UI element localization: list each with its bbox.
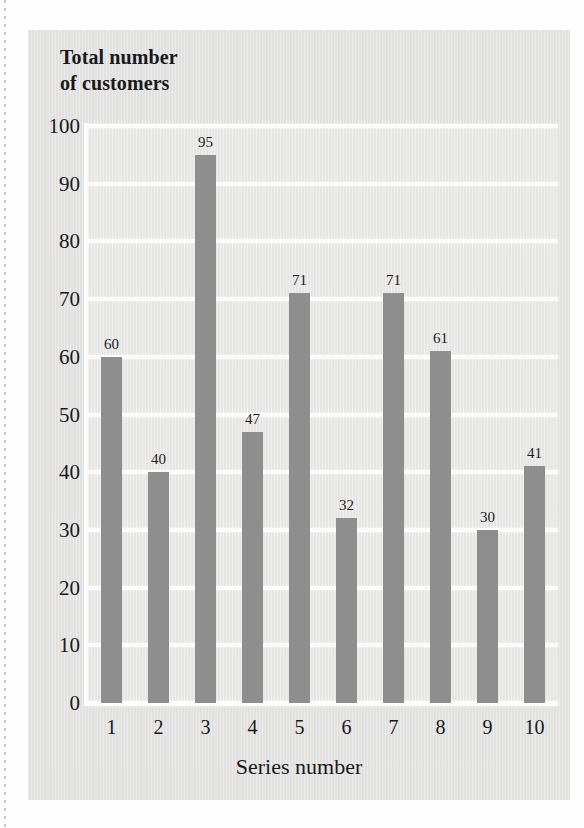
bar-9[interactable]	[477, 530, 498, 703]
bar-value-label-1: 60	[82, 336, 142, 353]
y-tick-label-50: 50	[30, 405, 80, 426]
bar-1[interactable]	[101, 357, 122, 703]
bar-8[interactable]	[430, 351, 451, 703]
x-axis-title: Series number	[28, 754, 570, 780]
bar-5[interactable]	[289, 293, 310, 703]
bar-value-label-10: 41	[505, 445, 565, 462]
bar-6[interactable]	[336, 518, 357, 703]
bar-value-label-4: 47	[223, 411, 283, 428]
bar-4[interactable]	[242, 432, 263, 703]
scanned-page: Total number of customers 10090807060504…	[0, 0, 584, 828]
plot-area: 60409547713271613041	[88, 126, 558, 703]
bar-value-label-8: 61	[411, 330, 471, 347]
bar-value-label-9: 30	[458, 509, 518, 526]
y-tick-label-10: 10	[30, 635, 80, 656]
y-tick-label-20: 20	[30, 578, 80, 599]
bar-2[interactable]	[148, 472, 169, 703]
gridline-80	[88, 239, 558, 243]
bar-value-label-6: 32	[317, 497, 377, 514]
gridline-60	[88, 355, 558, 359]
chart-title: Total number of customers	[60, 44, 360, 97]
y-tick-label-90: 90	[30, 174, 80, 195]
page-gutter-dotted-rule	[4, 0, 6, 828]
gridline-70	[88, 297, 558, 301]
x-tick-label-10: 10	[505, 717, 565, 737]
bar-value-label-2: 40	[129, 451, 189, 468]
y-tick-label-60: 60	[30, 347, 80, 368]
y-tick-label-80: 80	[30, 231, 80, 252]
bar-3[interactable]	[195, 155, 216, 703]
bar-7[interactable]	[383, 293, 404, 703]
bar-value-label-7: 71	[364, 272, 424, 289]
y-tick-label-0: 0	[30, 693, 80, 714]
y-tick-label-70: 70	[30, 289, 80, 310]
bar-chart-figure: Total number of customers 10090807060504…	[28, 30, 570, 800]
y-tick-label-100: 100	[30, 116, 80, 137]
bar-value-label-5: 71	[270, 272, 330, 289]
gridline-100	[88, 124, 558, 128]
gridline-50	[88, 413, 558, 417]
gridline-90	[88, 182, 558, 186]
y-tick-label-40: 40	[30, 462, 80, 483]
bar-10[interactable]	[524, 466, 545, 703]
bar-value-label-3: 95	[176, 134, 236, 151]
y-tick-label-30: 30	[30, 520, 80, 541]
chart-title-line-1: Total number	[60, 44, 360, 70]
chart-title-line-2: of customers	[60, 70, 360, 96]
